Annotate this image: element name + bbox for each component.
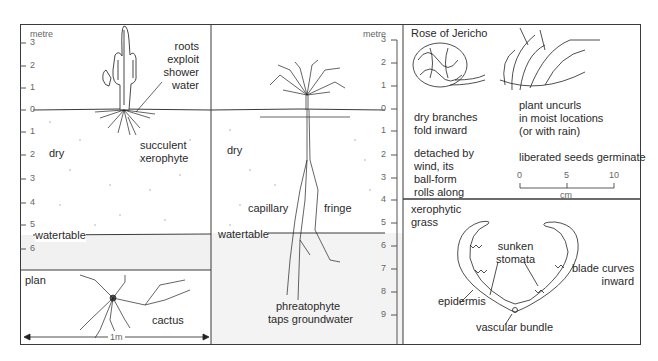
ground-surface	[33, 109, 385, 110]
stomata-line-1: sunken	[496, 240, 535, 253]
left-tick-3-up: 3	[30, 37, 35, 47]
dry-branches-line-2: fold inward	[414, 124, 478, 137]
plan-cactus-label: cactus	[152, 314, 184, 327]
mid-tick-9-down: 9	[381, 309, 386, 319]
xerophyte-line: xerophyte	[140, 152, 188, 165]
roots-line-4: water	[139, 79, 199, 92]
dry-label-left: dry	[49, 147, 64, 160]
vascular-bundle-label: vascular bundle	[476, 321, 553, 334]
capillary-label: capillary	[248, 202, 288, 215]
left-tick-5-down: 5	[30, 219, 35, 229]
mid-tick-5-down: 5	[381, 217, 386, 227]
blade-line-1: blade curves	[572, 262, 634, 275]
groundwater-zone-middle	[211, 233, 403, 344]
left-tick-1-up: 1	[30, 82, 35, 92]
blade-line-2: inward	[572, 275, 634, 288]
phreatophyte-line: phreatophyte	[268, 300, 348, 313]
mid-tick-4-down: 4	[381, 194, 386, 204]
roots-line-2: exploit	[139, 53, 199, 66]
taps-groundwater-line: taps groundwater	[268, 313, 348, 326]
blade-curves-label: blade curves inward	[572, 262, 634, 288]
fringe-label: fringe	[324, 202, 352, 215]
detached-line-4: rolls along	[414, 186, 474, 199]
plan-root-drawing	[80, 275, 190, 338]
mid-tick-8-down: 8	[381, 286, 386, 296]
watertable-label-middle: watertable	[218, 228, 269, 241]
succulent-line: succulent	[140, 139, 188, 152]
sunken-stomata-label: sunken stomata	[496, 240, 535, 266]
stomata-line-2: stomata	[496, 253, 535, 266]
left-tick-0: 0	[30, 104, 35, 114]
cm-tick-0: 0	[517, 170, 522, 180]
roots-line-3: shower	[139, 66, 199, 79]
mid-tick-6-down: 6	[381, 240, 386, 250]
detached-line-2: wind, its	[414, 160, 474, 173]
mid-tick-2-down: 2	[381, 149, 386, 159]
mid-tick-0: 0	[381, 103, 386, 113]
plant-uncurls-caption: plant uncurls in moist locations (or wit…	[519, 99, 603, 138]
grass-title-line-1: xerophytic	[411, 203, 461, 216]
left-tick-6-down: 6	[30, 243, 35, 253]
detached-line-3: ball-form	[414, 173, 474, 186]
mid-tick-3-up: 3	[381, 34, 386, 44]
cm-tick-5: 5	[564, 170, 569, 180]
left-tick-2-down: 2	[30, 149, 35, 159]
uncurls-line-1: plant uncurls	[519, 99, 603, 112]
mid-tick-1-up: 1	[381, 80, 386, 90]
plan-title: plan	[25, 274, 46, 287]
cm-tick-10: 10	[609, 170, 619, 180]
mid-tick-3-down: 3	[381, 172, 386, 182]
rose-moist-drawing	[500, 28, 600, 90]
uncurls-line-3: (or with rain)	[519, 125, 603, 138]
succulent-xerophyte-label: succulent xerophyte	[140, 139, 188, 165]
roots-line-1: roots	[139, 40, 199, 53]
dry-branches-caption: dry branches fold inward	[414, 111, 478, 137]
seeds-germinate-caption: liberated seeds germinate	[519, 151, 646, 164]
mid-tick-1-down: 1	[381, 125, 386, 135]
rose-of-jericho-title: Rose of Jericho	[411, 27, 487, 40]
detached-caption: detached by wind, its ball-form rolls al…	[414, 147, 474, 199]
watertable-label-left: watertable	[35, 229, 86, 242]
cactus-drawing	[103, 26, 136, 110]
uncurls-line-2: in moist locations	[519, 112, 603, 125]
grass-title-line-2: grass	[411, 216, 461, 229]
roots-annotation: roots exploit shower water	[139, 40, 199, 92]
soil-dots	[49, 121, 370, 225]
rose-dry-drawing	[413, 43, 485, 87]
dry-label-middle: dry	[227, 144, 242, 157]
left-tick-4-down: 4	[30, 197, 35, 207]
left-tick-3-down: 3	[30, 173, 35, 183]
grass-blade-drawing	[458, 221, 578, 325]
xerophytic-grass-title: xerophytic grass	[411, 203, 461, 229]
dry-branches-line-1: dry branches	[414, 111, 478, 124]
mid-tick-2-up: 2	[381, 57, 386, 67]
left-tick-1-down: 1	[30, 126, 35, 136]
cm-unit-label: cm	[560, 189, 572, 202]
cm-scale-bar	[520, 183, 614, 188]
mid-tick-7-down: 7	[381, 263, 386, 273]
phreatophyte-label: phreatophyte taps groundwater	[268, 300, 348, 326]
plan-scale-label: 1m	[108, 331, 125, 344]
epidermis-label: epidermis	[438, 295, 486, 308]
left-tick-2-up: 2	[30, 60, 35, 70]
detached-line-1: detached by	[414, 147, 474, 160]
